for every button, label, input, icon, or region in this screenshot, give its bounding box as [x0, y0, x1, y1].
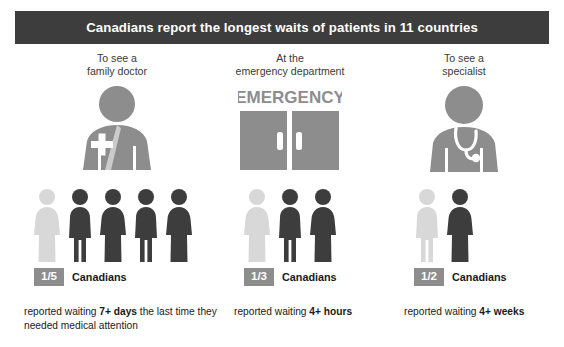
header-banner: Canadians report the longest waits of pa… — [15, 11, 549, 44]
caption-emphasis: 4+ weeks — [479, 306, 524, 317]
people-group-emergency-department — [243, 188, 337, 262]
person-figure-female — [99, 188, 127, 262]
caption-emergency-department: reported waiting 4+ hours — [234, 305, 409, 319]
columns-container: To see a family doctor At the emergency … — [0, 50, 564, 190]
stethoscope-chestpiece-icon — [472, 154, 480, 162]
person-figure-female — [446, 188, 474, 262]
column-heading-emergency-department: At the emergency department — [216, 52, 364, 78]
column-emergency-department: At the emergency department EMERGENCY — [216, 50, 364, 176]
person-figure-female — [243, 188, 271, 262]
infographic-root: Canadians report the longest waits of pa… — [0, 0, 564, 347]
door-handle-right-icon — [296, 132, 302, 150]
door-handle-left-icon — [277, 132, 283, 150]
unit-label: Canadians — [452, 271, 507, 283]
people-rows-container — [0, 188, 564, 268]
emergency-department-icon-wrap: EMERGENCY — [216, 84, 364, 176]
fraction-badge: 1/5 — [34, 268, 64, 286]
emergency-sign-text: EMERGENCY — [238, 88, 342, 107]
people-group-specialist — [413, 188, 474, 262]
caption-specialist: reported waiting 4+ weeks — [404, 305, 564, 319]
caption-emphasis: 7+ days — [99, 306, 137, 317]
person-figure-male — [132, 188, 160, 262]
stat-row-emergency-department: 1/3 Canadians — [244, 268, 337, 286]
people-group-family-doctor — [33, 188, 193, 262]
stat-row-specialist: 1/2 Canadians — [414, 268, 507, 286]
column-family-doctor: To see a family doctor — [18, 50, 216, 176]
specialist-doctor-icon-wrap — [380, 84, 548, 176]
caption-prefix: reported waiting — [404, 306, 479, 317]
person-figure-male — [66, 188, 94, 262]
unit-label: Canadians — [282, 271, 337, 283]
person-figure-female — [309, 188, 337, 262]
column-heading-specialist: To see a specialist — [380, 52, 548, 78]
person-figure-male — [276, 188, 304, 262]
specialist-doctor-icon — [423, 84, 505, 172]
caption-prefix: reported waiting — [234, 306, 309, 317]
caption-prefix: reported waiting — [24, 306, 99, 317]
fraction-badge: 1/2 — [414, 268, 444, 286]
person-figure-male — [413, 188, 441, 262]
caption-family-doctor: reported waiting 7+ days the last time t… — [24, 305, 239, 332]
emergency-department-icon: EMERGENCY — [238, 84, 342, 172]
person-figure-female — [165, 188, 193, 262]
stat-row-family-doctor: 1/5 Canadians — [34, 268, 127, 286]
person-figure-female — [33, 188, 61, 262]
page-title: Canadians report the longest waits of pa… — [86, 20, 478, 35]
column-specialist: To see a specialist — [380, 50, 548, 176]
family-doctor-icon — [78, 84, 156, 170]
caption-emphasis: 4+ hours — [309, 306, 352, 317]
column-heading-family-doctor: To see a family doctor — [18, 52, 216, 78]
unit-label: Canadians — [72, 271, 127, 283]
fraction-badge: 1/3 — [244, 268, 274, 286]
family-doctor-icon-wrap — [18, 84, 216, 176]
